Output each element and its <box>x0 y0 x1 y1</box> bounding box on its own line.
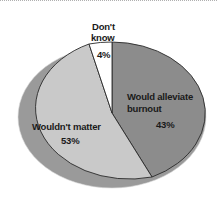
label-would-alleviate-pct: 43% <box>156 119 175 130</box>
pie-chart: Would alleviate burnout 43% Wouldn't mat… <box>0 0 217 203</box>
label-wouldnt-matter: Wouldn't matter <box>32 121 101 132</box>
label-would-alleviate-line2: burnout <box>127 103 163 114</box>
label-dont-know-pct: 4% <box>97 49 111 60</box>
label-dont-know-line2: know <box>91 32 115 43</box>
label-would-alleviate-line1: Would alleviate <box>127 91 193 102</box>
label-dont-know-line1: Don't <box>92 21 116 32</box>
label-wouldnt-matter-pct: 53% <box>61 135 80 146</box>
